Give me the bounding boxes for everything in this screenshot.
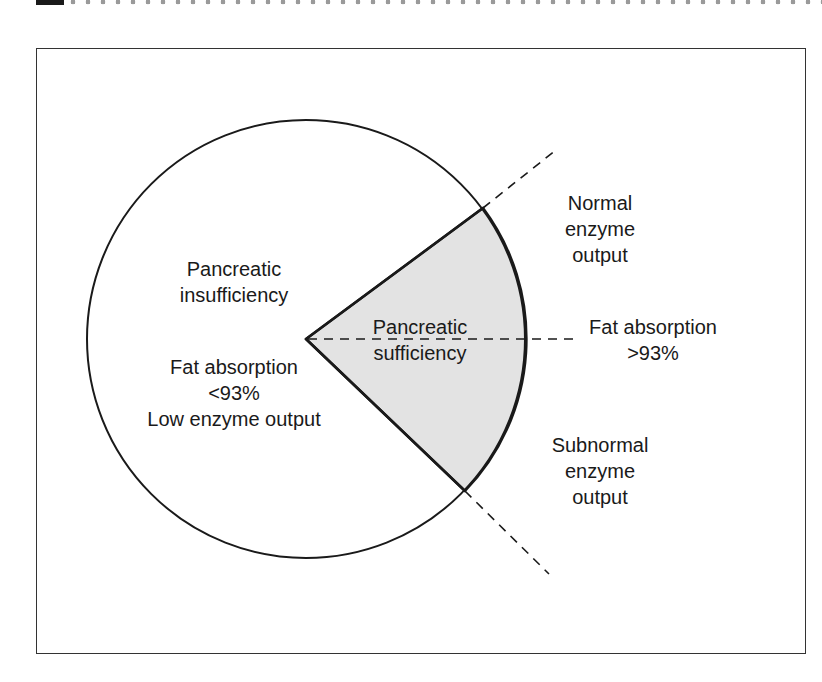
insufficiency-title: Pancreatic insufficiency [124, 256, 344, 308]
normal-enzyme-label: Normal enzyme output [530, 190, 670, 268]
insufficiency-detail: Fat absorption <93% Low enzyme output [114, 354, 354, 432]
fat-absorption-high-label: Fat absorption >93% [568, 314, 738, 366]
subnormal-enzyme-label: Subnormal enzyme output [520, 432, 680, 510]
sufficiency-label: Pancreatic sufficiency [340, 314, 500, 366]
